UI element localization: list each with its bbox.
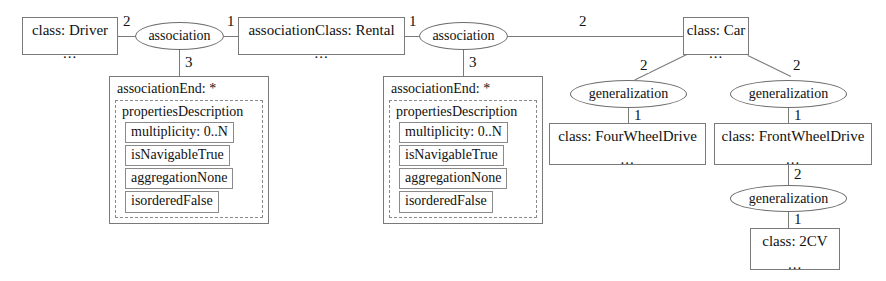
node-class-car-label: class: Car [684, 18, 748, 38]
node-class-2cv-dots: ... [751, 249, 839, 272]
node-associationclass-rental-label: associationClass: Rental [239, 18, 404, 38]
edge-label-car-generalization-right: 2 [792, 58, 802, 73]
node-generalization-right[interactable]: generalization [730, 80, 847, 108]
node-class-car-dots: ... [684, 38, 748, 61]
edge-label-driver-assoc1: 2 [122, 14, 132, 29]
property-aggregation[interactable]: aggregationNone [125, 168, 233, 189]
node-class-2cv-label: class: 2CV [751, 229, 839, 249]
uml-diagram-canvas: 2 1 3 1 3 2 2 2 1 1 2 1 class: Driver ..… [0, 0, 886, 281]
propertiesdescription-1-title: propertiesDescription [120, 104, 258, 122]
node-associationclass-rental-dots: ... [239, 38, 404, 61]
property-isordered[interactable]: isorderedFalse [125, 191, 219, 212]
propertiesdescription-2-title: propertiesDescription [394, 104, 532, 122]
edge-generalization-right-frontwheeldrive [788, 107, 789, 123]
node-class-fourwheeldrive-label: class: FourWheelDrive [550, 124, 705, 144]
node-class-driver[interactable]: class: Driver ... [22, 17, 118, 55]
edge-label-rental-assoc2: 1 [408, 14, 418, 29]
property-list-1: multiplicity: 0..N isNavigableTrue aggre… [120, 122, 258, 212]
edge-assoc1-rental [223, 36, 239, 37]
node-associationend-1-title: associationEnd: * [115, 81, 263, 100]
edge-generalization-left-fourwheeldrive [628, 107, 629, 123]
edge-label-generalization-bottom-twocv: 1 [793, 212, 803, 227]
node-association-2[interactable]: association [419, 22, 508, 50]
node-class-driver-dots: ... [23, 38, 117, 61]
node-generalization-bottom-label: generalization [749, 191, 828, 207]
edge-assoc2-associationend [463, 49, 464, 76]
node-associationclass-rental[interactable]: associationClass: Rental ... [238, 17, 405, 55]
edge-label-frontwheeldrive-generalization-bottom: 2 [793, 167, 803, 182]
node-class-2cv[interactable]: class: 2CV ... [750, 228, 840, 270]
edge-label-assoc2-car: 2 [578, 14, 588, 29]
propertiesdescription-2: propertiesDescription multiplicity: 0..N… [389, 100, 537, 217]
edge-label-assoc1-end: 3 [184, 55, 194, 70]
property-list-2: multiplicity: 0..N isNavigableTrue aggre… [394, 122, 532, 212]
property-isnavigable[interactable]: isNavigableTrue [399, 145, 504, 166]
property-multiplicity[interactable]: multiplicity: 0..N [399, 122, 508, 143]
node-class-fourwheeldrive[interactable]: class: FourWheelDrive ... [549, 123, 706, 165]
edge-label-assoc1-rental: 1 [226, 14, 236, 29]
property-isordered[interactable]: isorderedFalse [399, 191, 493, 212]
node-class-car[interactable]: class: Car ... [683, 17, 749, 55]
edge-label-generalization-right-frontwheeldrive: 1 [793, 108, 803, 123]
node-class-frontwheeldrive-label: class: FrontWheelDrive [715, 124, 871, 144]
node-class-frontwheeldrive[interactable]: class: FrontWheelDrive ... [714, 123, 872, 165]
node-class-driver-label: class: Driver [23, 18, 117, 38]
node-generalization-left[interactable]: generalization [570, 80, 687, 108]
edge-frontwheeldrive-generalization-bottom [788, 165, 789, 186]
node-associationend-2[interactable]: associationEnd: * propertiesDescription … [383, 76, 543, 224]
node-generalization-bottom[interactable]: generalization [730, 185, 847, 212]
edge-rental-assoc2 [405, 36, 420, 37]
node-associationend-1[interactable]: associationEnd: * propertiesDescription … [109, 76, 269, 224]
node-association-1[interactable]: association [135, 22, 224, 50]
node-class-fourwheeldrive-dots: ... [550, 144, 705, 167]
property-multiplicity[interactable]: multiplicity: 0..N [125, 122, 234, 143]
node-generalization-right-label: generalization [749, 86, 828, 102]
edge-label-assoc2-end: 3 [468, 55, 478, 70]
node-associationend-2-title: associationEnd: * [389, 81, 537, 100]
edge-assoc1-associationend [179, 49, 180, 76]
node-association-2-label: association [432, 28, 494, 44]
propertiesdescription-1: propertiesDescription multiplicity: 0..N… [115, 100, 263, 217]
property-aggregation[interactable]: aggregationNone [399, 168, 507, 189]
edge-car-generalization-right [748, 55, 792, 77]
edge-generalization-bottom-twocv [788, 211, 789, 228]
node-generalization-left-label: generalization [589, 86, 668, 102]
node-class-frontwheeldrive-dots: ... [715, 144, 871, 167]
edge-assoc2-car [506, 36, 683, 37]
property-isnavigable[interactable]: isNavigableTrue [125, 145, 230, 166]
edge-label-generalization-left-fourwheeldrive: 1 [633, 108, 643, 123]
edge-label-car-generalization-left: 2 [639, 58, 649, 73]
node-association-1-label: association [148, 28, 210, 44]
